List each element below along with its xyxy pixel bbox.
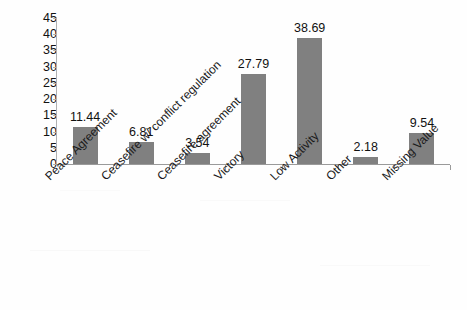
plot-area: 11.446.813.5427.7938.692.189.54 (57, 18, 450, 164)
y-axis-tick-label: 25 (23, 77, 57, 90)
y-axis-tick-label: 20 (23, 93, 57, 106)
bar-chart: 051015202530354045 11.446.813.5427.7938.… (0, 0, 467, 310)
bar-value-label: 38.69 (280, 22, 340, 35)
bar-value-label: 27.79 (224, 58, 284, 71)
y-axis: 051015202530354045 (0, 0, 57, 310)
y-axis-tick-label: 40 (23, 28, 57, 41)
bar (353, 157, 378, 164)
bar-value-label: 9.54 (392, 117, 452, 130)
y-axis-tick-label: 15 (23, 109, 57, 122)
bar (241, 74, 266, 164)
y-axis-tick-label: 10 (23, 125, 57, 138)
y-axis-tick-label: 5 (23, 142, 57, 155)
y-axis-tick-label: 30 (23, 60, 57, 73)
y-axis-tick-label: 45 (23, 12, 57, 25)
y-axis-tick-label: 35 (23, 44, 57, 57)
x-axis-tick-mark (450, 165, 451, 170)
